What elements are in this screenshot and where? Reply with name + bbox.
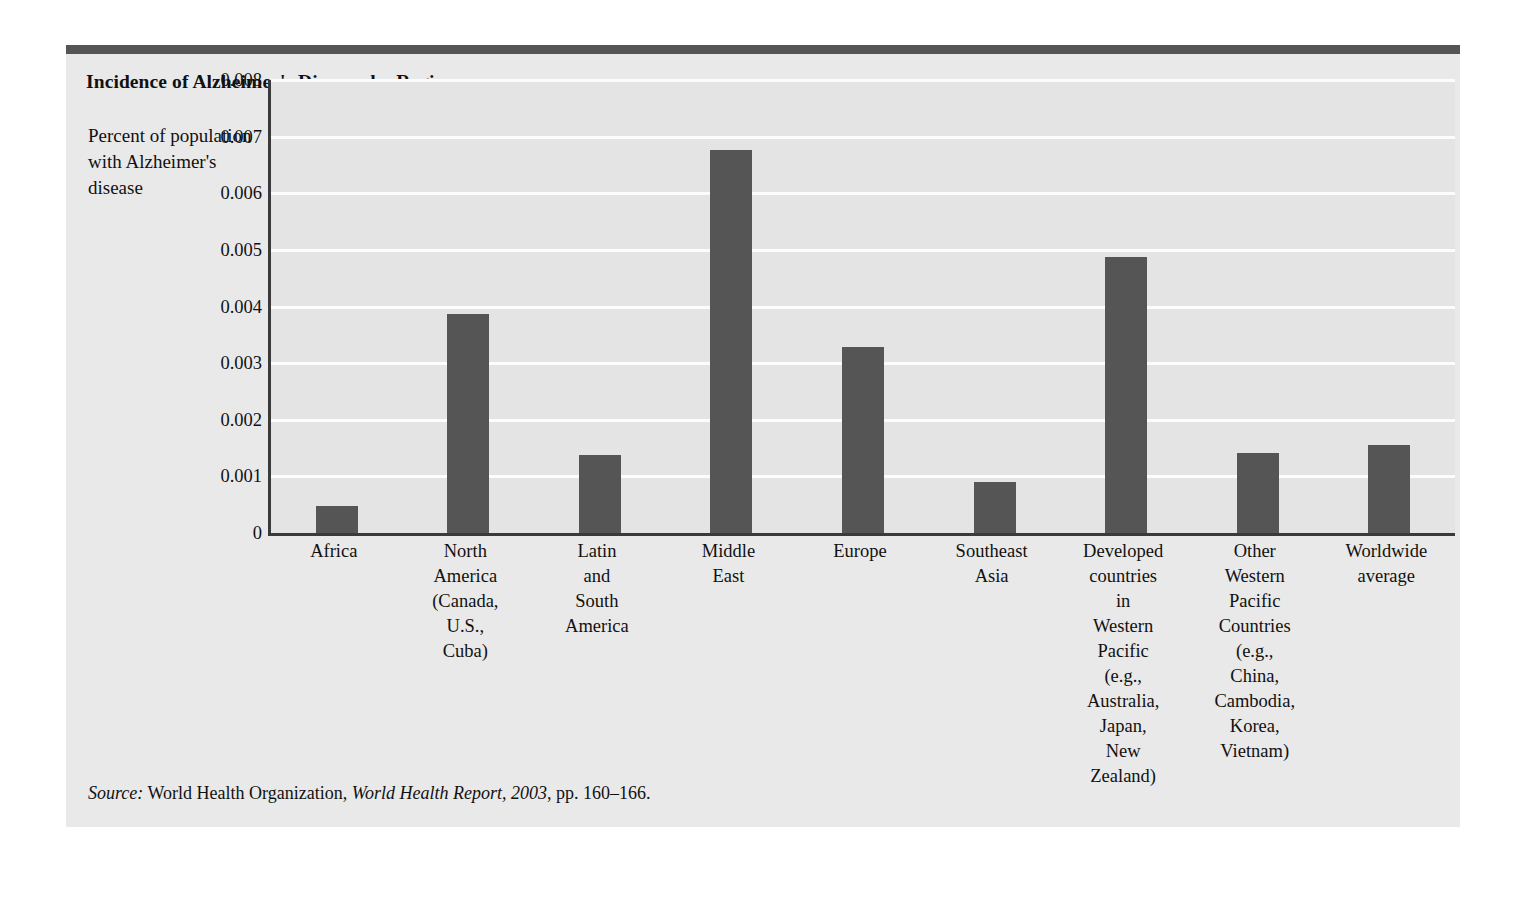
bar — [579, 455, 621, 533]
x-axis-tick-label-line: and — [533, 564, 661, 589]
x-axis-tick-labels: AfricaNorthAmerica(Canada,U.S.,Cuba)Lati… — [268, 539, 1452, 789]
x-axis-tick-label-line: America — [533, 614, 661, 639]
x-axis-tick-label-line: (Canada, — [402, 589, 530, 614]
x-axis-tick-label-line: East — [665, 564, 793, 589]
x-axis-tick-label-line: Latin — [533, 539, 661, 564]
x-axis-tick-label-line: Cambodia, — [1191, 689, 1319, 714]
bar-slot — [666, 80, 798, 533]
x-axis-tick-label: MiddleEast — [663, 539, 795, 589]
x-axis-tick-label: Africa — [268, 539, 400, 564]
y-axis-tick-label: 0.005 — [220, 239, 262, 260]
x-axis-tick-label-line: Other — [1191, 539, 1319, 564]
x-axis-tick-label-line: Asia — [928, 564, 1056, 589]
x-axis-tick-label-line: Korea, — [1191, 714, 1319, 739]
plot-area — [268, 80, 1455, 536]
x-axis-tick-label-line: Pacific — [1191, 589, 1319, 614]
bar — [710, 150, 752, 533]
x-axis-tick-label-line: Africa — [270, 539, 398, 564]
x-axis-tick-label-line: Zealand) — [1059, 764, 1187, 789]
x-axis-tick-label-line: Southeast — [928, 539, 1056, 564]
x-axis-tick-label-line: Worldwide — [1323, 539, 1451, 564]
x-axis-tick-label-line: Europe — [796, 539, 924, 564]
x-axis-tick-label: SoutheastAsia — [926, 539, 1058, 589]
bar — [842, 347, 884, 533]
y-axis-tick-label: 0.006 — [220, 183, 262, 204]
bar — [1105, 257, 1147, 533]
x-axis-tick-label-line: (e.g., — [1191, 639, 1319, 664]
x-axis-tick-label-line: countries — [1059, 564, 1187, 589]
y-axis-tick-label: 0.008 — [220, 70, 262, 91]
y-axis-tick-label: 0.001 — [220, 466, 262, 487]
x-axis-tick-label-line: South — [533, 589, 661, 614]
y-axis-tick-labels: 0.0080.0070.0060.0050.0040.0030.0020.001… — [188, 80, 262, 533]
x-axis-tick-label-line: U.S., — [402, 614, 530, 639]
y-axis-tick-label: 0.002 — [220, 409, 262, 430]
bar-slot — [403, 80, 535, 533]
figure-panel: Incidence of Alzheimer's Disease, by Reg… — [66, 45, 1460, 827]
x-axis-tick-label-line: Western — [1191, 564, 1319, 589]
x-axis-tick-label-line: average — [1323, 564, 1451, 589]
bar — [316, 506, 358, 533]
x-axis-tick-label-line: Middle — [665, 539, 793, 564]
y-axis-tick-label: 0.004 — [220, 296, 262, 317]
y-axis-tick-label: 0.007 — [220, 126, 262, 147]
x-axis-tick-label-line: Japan, — [1059, 714, 1187, 739]
x-axis-tick-label-line: Western — [1059, 614, 1187, 639]
x-axis-tick-label-line: Vietnam) — [1191, 739, 1319, 764]
bar-series — [271, 80, 1455, 533]
x-axis-tick-label-line: New — [1059, 739, 1187, 764]
x-axis-tick-label: Europe — [794, 539, 926, 564]
bar — [1368, 445, 1410, 533]
bar — [447, 314, 489, 533]
x-axis-tick-label-line: America — [402, 564, 530, 589]
x-axis-tick-label: NorthAmerica(Canada,U.S.,Cuba) — [400, 539, 532, 664]
x-axis-tick-label-line: China, — [1191, 664, 1319, 689]
x-axis-tick-label-line: Developed — [1059, 539, 1187, 564]
bar-slot — [1060, 80, 1192, 533]
source-note: Source: World Health Organization, World… — [88, 783, 650, 804]
plot-wrapper: 0.0080.0070.0060.0050.0040.0030.0020.001… — [268, 80, 1456, 840]
y-axis-tick-label: 0 — [253, 523, 262, 544]
y-axis-tick-label: 0.003 — [220, 353, 262, 374]
source-pages: , pp. 160–166. — [547, 783, 651, 803]
x-axis-tick-label-line: Australia, — [1059, 689, 1187, 714]
bar-slot — [271, 80, 403, 533]
x-axis-tick-label-line: (e.g., — [1059, 664, 1187, 689]
x-axis-tick-label-line: Cuba) — [402, 639, 530, 664]
x-axis-tick-label: DevelopedcountriesinWesternPacific(e.g.,… — [1057, 539, 1189, 789]
x-axis-tick-label-line: North — [402, 539, 530, 564]
source-organization: World Health Organization, — [143, 783, 351, 803]
x-axis-tick-label: OtherWesternPacificCountries(e.g.,China,… — [1189, 539, 1321, 764]
bar-slot — [797, 80, 929, 533]
x-axis-tick-label-line: Pacific — [1059, 639, 1187, 664]
bar-slot — [534, 80, 666, 533]
bar — [974, 482, 1016, 533]
source-publication: World Health Report, 2003 — [352, 783, 547, 803]
x-axis-tick-label: LatinandSouthAmerica — [531, 539, 663, 639]
x-axis-tick-label-line: Countries — [1191, 614, 1319, 639]
bar — [1237, 453, 1279, 533]
x-axis-tick-label: Worldwideaverage — [1321, 539, 1453, 589]
bar-slot — [1324, 80, 1456, 533]
bar-slot — [1192, 80, 1324, 533]
bar-slot — [929, 80, 1061, 533]
x-axis-tick-label-line: in — [1059, 589, 1187, 614]
top-rule-divider — [66, 45, 1460, 54]
source-label: Source: — [88, 783, 143, 803]
